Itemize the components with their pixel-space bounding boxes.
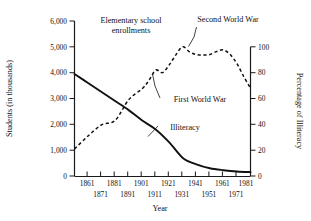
- annotation-first-world-war-label: First World War: [174, 95, 227, 104]
- x-tick-1931: 1931: [174, 190, 189, 199]
- x-axis: 1861 1881 1901 1921 1941 1961 1981 1871 …: [75, 172, 254, 214]
- annotation-second-world-war-label: Second World War: [197, 15, 259, 24]
- annotation-first-world-war-leader: [153, 74, 161, 98]
- y-tick-6000: 6,000: [50, 17, 67, 26]
- y-tick-0: 0: [63, 172, 67, 181]
- y-tick-5000: 5,000: [50, 43, 67, 52]
- y2-tick-0: 0: [258, 172, 262, 181]
- left-axis: 6,000 5,000 4,000 3,000 2,000 1,000 0 St…: [5, 17, 75, 181]
- annotation-illiteracy-label: Illiteracy: [170, 123, 200, 132]
- y2-axis-title: Percentage of Illiteracy: [295, 73, 304, 150]
- x-axis-title: Year: [152, 204, 167, 213]
- y2-tick-100: 100: [258, 43, 269, 52]
- y2-tick-80: 80: [258, 68, 266, 77]
- annotation-second-world-war: Second World War: [189, 15, 260, 47]
- x-tick-1951: 1951: [202, 190, 217, 199]
- y-tick-2000: 2,000: [50, 120, 67, 129]
- chart-svg: 6,000 5,000 4,000 3,000 2,000 1,000 0 St…: [0, 0, 311, 221]
- x-tick-1891: 1891: [120, 190, 135, 199]
- x-tick-1921: 1921: [161, 179, 176, 188]
- x-tick-1881: 1881: [107, 179, 122, 188]
- y-axis-title: Students (in thousands): [5, 60, 14, 137]
- x-tick-1971: 1971: [229, 190, 244, 199]
- y2-tick-40: 40: [258, 120, 266, 129]
- y-tick-4000: 4,000: [50, 68, 67, 77]
- y-tick-1000: 1,000: [50, 146, 67, 155]
- annotation-enrollments: Elementary school enrollments: [100, 16, 162, 35]
- right-axis: 100 80 60 40 20 0 Percentage of Illitera…: [251, 43, 305, 181]
- x-tick-1981: 1981: [239, 179, 254, 188]
- y2-tick-60: 60: [258, 94, 266, 103]
- annotation-enrollments-line2: enrollments: [112, 26, 151, 35]
- chart-container: 6,000 5,000 4,000 3,000 2,000 1,000 0 St…: [0, 0, 311, 221]
- x-tick-1901: 1901: [134, 179, 149, 188]
- annotation-enrollments-line1: Elementary school: [100, 16, 162, 25]
- annotation-second-world-war-leader: [189, 27, 197, 47]
- x-tick-1861: 1861: [80, 179, 95, 188]
- x-tick-1961: 1961: [215, 179, 230, 188]
- x-tick-1871: 1871: [93, 190, 108, 199]
- series-illiteracy: [75, 74, 251, 172]
- x-tick-1911: 1911: [148, 190, 163, 199]
- x-tick-1941: 1941: [188, 179, 203, 188]
- y-tick-3000: 3,000: [50, 94, 67, 103]
- y2-tick-20: 20: [258, 146, 266, 155]
- annotation-first-world-war: First World War: [153, 74, 227, 104]
